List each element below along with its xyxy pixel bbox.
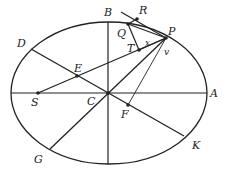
label-c: C <box>87 95 96 108</box>
label-g: G <box>34 153 43 166</box>
label-k: K <box>191 139 201 152</box>
label-p: P <box>167 25 176 38</box>
point-s <box>36 91 40 95</box>
label-q: Q <box>117 27 126 40</box>
label-f: F <box>120 108 129 121</box>
line-tp <box>139 38 166 50</box>
point-c <box>106 91 110 95</box>
label-s: S <box>31 96 39 109</box>
point-f <box>126 103 130 107</box>
point-q <box>126 22 130 26</box>
line-qp <box>128 24 166 38</box>
label-e: E <box>73 62 82 75</box>
label-d: D <box>16 37 26 50</box>
point-t <box>137 48 141 52</box>
label-t: T <box>127 42 136 55</box>
ellipse-diagram: B R Q P T x v D E S C A F G K <box>0 0 226 173</box>
label-a: A <box>209 87 218 100</box>
point-r <box>135 17 139 21</box>
label-b: B <box>103 6 112 19</box>
label-v: v <box>164 47 169 57</box>
label-x: x <box>145 38 150 48</box>
label-r: R <box>138 4 147 17</box>
